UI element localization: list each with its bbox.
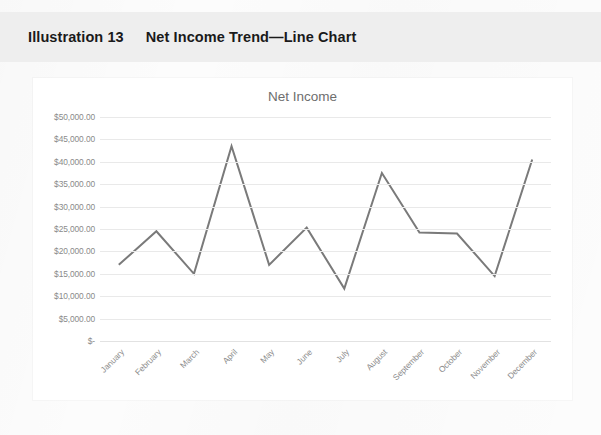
y-axis-tick-label: $30,000.00	[33, 202, 95, 212]
gridline	[100, 251, 551, 252]
y-axis-tick-label: $35,000.00	[33, 179, 95, 189]
x-axis-tick-label: April	[220, 347, 239, 366]
y-axis-tick-label: $5,000.00	[33, 314, 95, 324]
y-axis-tick-label: $15,000.00	[33, 269, 95, 279]
y-axis: $50,000.00$45,000.00$40,000.00$35,000.00…	[33, 117, 95, 341]
x-axis-tick-label: September	[391, 347, 426, 382]
caption-inner: Illustration 13 Net Income Trend—Line Ch…	[0, 29, 356, 45]
plot-area	[100, 117, 551, 341]
chart-card: Net Income $50,000.00$45,000.00$40,000.0…	[33, 78, 572, 400]
gridline	[100, 341, 551, 342]
x-axis-tick-label: February	[133, 347, 163, 377]
gridline	[100, 184, 551, 185]
y-axis-tick-label: $50,000.00	[33, 112, 95, 122]
gridline	[100, 162, 551, 163]
chart-title: Net Income	[33, 89, 572, 104]
gridline	[100, 207, 551, 208]
x-axis-tick-label: June	[294, 347, 314, 367]
gridline	[100, 139, 551, 140]
x-axis-tick-label: November	[468, 347, 502, 381]
y-axis-tick-label: $25,000.00	[33, 224, 95, 234]
gridline	[100, 117, 551, 118]
x-axis-tick-label: January	[98, 347, 126, 375]
x-axis-tick-label: December	[505, 347, 539, 381]
y-axis-tick-label: $45,000.00	[33, 134, 95, 144]
gridline	[100, 296, 551, 297]
y-axis-tick-label: $-	[33, 336, 95, 346]
x-axis-tick-label: May	[258, 347, 276, 365]
gridline	[100, 229, 551, 230]
gridline	[100, 319, 551, 320]
y-axis-tick-label: $10,000.00	[33, 291, 95, 301]
x-axis-tick-label: August	[364, 347, 389, 372]
illustration-title: Net Income Trend—Line Chart	[146, 29, 357, 45]
x-axis: JanuaryFebruaryMarchAprilMayJuneJulyAugu…	[100, 343, 551, 399]
series-line-net-income	[119, 146, 532, 288]
y-axis-tick-label: $40,000.00	[33, 157, 95, 167]
y-axis-tick-label: $20,000.00	[33, 246, 95, 256]
illustration-number: Illustration 13	[28, 29, 124, 45]
x-axis-tick-label: October	[436, 347, 464, 375]
illustration-caption-band: Illustration 13 Net Income Trend—Line Ch…	[0, 12, 601, 62]
gridline	[100, 274, 551, 275]
x-axis-tick-label: July	[334, 347, 351, 364]
x-axis-tick-label: March	[178, 347, 201, 370]
